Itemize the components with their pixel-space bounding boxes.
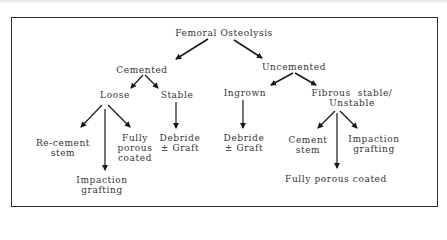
arrow-root-to-cemented [176,39,208,59]
node-uncemented: Uncemented [258,62,330,72]
node-stable: Stable [155,90,199,100]
node-cement-stem: Cement stem [285,135,331,155]
arrow-fibrous-to-impaction [340,111,357,128]
arrow-fibrous-to-cement-stem [318,111,335,128]
node-stable-debride-graft: Debride ± Graft [155,133,205,153]
node-loose: Loose [96,90,134,100]
node-recement-stem: Re-cement stem [33,138,93,158]
arrow-cemented-to-loose [131,75,143,88]
arrow-root-to-uncemented [234,40,262,58]
node-fibrous-impaction-grafting: Impaction grafting [346,134,402,154]
node-loose-fully-porous-coated: Fully porous coated [116,133,154,163]
node-fibrous-stable-unstable: Fibrous stable/ Unstable [308,88,396,108]
node-ingrown: Ingrown [220,88,270,98]
arrow-loose-to-recement [81,105,102,127]
arrow-cemented-to-stable [145,75,158,88]
arrow-uncemented-to-fibrous [295,73,316,85]
node-loose-impaction-grafting: Impaction grafting [74,175,130,195]
node-femoral-osteolysis: Femoral Osteolysis [172,28,276,38]
node-ingrown-debride-graft: Debride ± Graft [219,133,269,153]
arrow-uncemented-to-ingrown [271,73,293,85]
node-cemented: Cemented [112,65,172,75]
arrow-loose-to-fully-porous [108,105,130,127]
node-fibrous-fully-porous-coated: Fully porous coated [280,174,392,184]
